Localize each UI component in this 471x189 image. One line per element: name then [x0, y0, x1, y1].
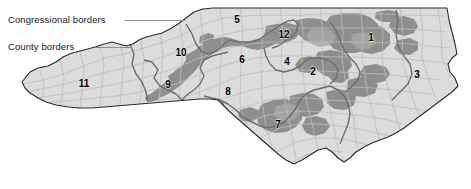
- district-number-11: 11: [79, 79, 90, 89]
- legend-leader-line-congressional: [125, 20, 185, 21]
- district-number-5: 5: [234, 15, 240, 25]
- district-number-10: 10: [175, 48, 186, 58]
- district-number-7: 7: [275, 120, 281, 130]
- map-graphic: [0, 0, 471, 189]
- district-number-8: 8: [225, 87, 231, 97]
- district-number-2: 2: [310, 67, 316, 77]
- legend-label-county-borders: County borders: [8, 41, 74, 52]
- legend-leader-line-county: [96, 47, 132, 48]
- district-number-6: 6: [239, 55, 245, 65]
- district-number-9: 9: [165, 80, 171, 90]
- legend-label-congressional-borders: Congressional borders: [8, 14, 106, 25]
- district-number-3: 3: [414, 70, 420, 80]
- district-number-1: 1: [368, 33, 374, 43]
- district-number-4: 4: [284, 57, 290, 67]
- district-number-12: 12: [278, 30, 289, 40]
- north-carolina-congressional-district-map: Congressional borders County borders 123…: [0, 0, 471, 189]
